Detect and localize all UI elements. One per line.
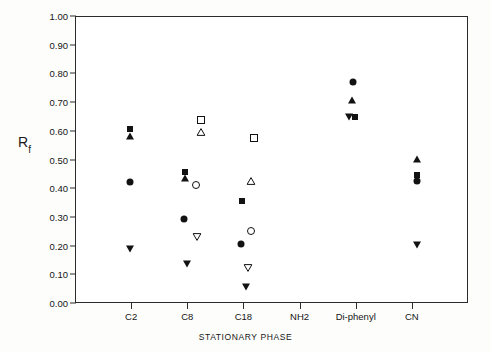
x-tick-mark [356,303,357,309]
marker-triangle-filled-icon [413,156,421,163]
x-tick-label-c2: C2 [125,311,137,322]
y-tick-label: 0.60 [30,125,68,136]
marker-triangle-filled-icon [181,174,189,181]
y-tick-label: 0.90 [30,39,68,50]
x-tick-label-cn: CN [405,311,419,322]
marker-square-filled-icon [352,114,358,120]
x-tick-label-di-phenyl: Di-phenyl [336,311,376,322]
y-tick-label: 0.50 [30,154,68,165]
y-tick-label: 0.80 [30,68,68,79]
y-tick-label: 0.20 [30,240,68,251]
marker-square-filled-icon [239,198,245,204]
marker-circle-open-icon [192,181,200,189]
x-axis-title-text: STATIONARY PHASE [199,332,293,342]
y-tick-label: 0.40 [30,183,68,194]
scatter-plot-figure: Rf 0.000.100.200.300.400.500.600.700.800… [0,0,491,352]
y-axis-title-main: R [18,134,28,150]
marker-square-open-icon [250,134,258,142]
y-tick-label: 0.30 [30,211,68,222]
marker-square-open-icon [197,116,205,124]
y-tick-label: 0.00 [30,298,68,309]
x-tick-mark [131,303,132,309]
marker-triangledown-open-icon [192,233,201,241]
marker-circle-filled-icon [414,177,421,184]
x-tick-mark [412,303,413,309]
marker-circle-filled-icon [126,179,133,186]
marker-triangledown-filled-icon [413,242,421,249]
y-axis-title: Rf [18,134,31,153]
marker-triangledown-filled-icon [183,260,191,267]
x-tick-mark [187,303,188,309]
marker-circle-filled-icon [238,240,245,247]
marker-square-filled-icon [127,126,133,132]
y-tick-label: 0.10 [30,269,68,280]
x-tick-mark [300,303,301,309]
marker-triangle-filled-icon [348,97,356,104]
marker-circle-open-icon [247,227,255,235]
marker-triangledown-filled-icon [126,246,134,253]
x-tick-mark [243,303,244,309]
marker-triangledown-filled-icon [242,283,250,290]
y-tick-label: 0.70 [30,97,68,108]
marker-triangle-open-icon [196,128,205,136]
plot-area [75,16,468,303]
x-tick-label-c8: C8 [181,311,193,322]
marker-circle-filled-icon [181,216,188,223]
y-tick-label: 1.00 [30,11,68,22]
x-tick-label-c18: C18 [235,311,252,322]
x-tick-label-nh2: NH2 [290,311,309,322]
marker-triangle-open-icon [246,177,255,185]
marker-circle-filled-icon [350,78,357,85]
marker-triangledown-open-icon [244,264,253,272]
marker-triangle-filled-icon [126,133,134,140]
x-axis-title: STATIONARY PHASE [0,332,491,342]
